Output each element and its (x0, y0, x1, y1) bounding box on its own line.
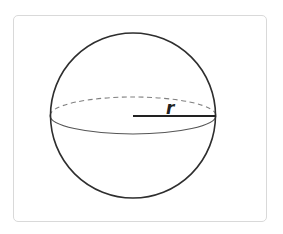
radius-label: r (166, 98, 176, 118)
sphere-diagram: r (0, 0, 283, 234)
equator-visible-arc (50, 116, 216, 135)
equator-hidden-arc (50, 97, 216, 116)
